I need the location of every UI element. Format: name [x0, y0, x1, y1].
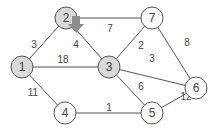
graph-diagram: 31811472361128 1234567 [0, 0, 219, 136]
edge-7-6 [152, 18, 196, 88]
edge-weight-label: 3 [149, 53, 155, 64]
edge-weight-label: 6 [138, 81, 144, 92]
node-6[interactable]: 6 [185, 77, 207, 99]
node-label: 4 [62, 106, 69, 120]
node-label: 1 [19, 60, 26, 74]
edge-weight-label: 3 [31, 39, 37, 50]
node-label: 6 [193, 81, 200, 95]
edge-weight-label: 2 [138, 40, 144, 51]
node-label: 3 [106, 60, 113, 74]
node-7[interactable]: 7 [141, 7, 163, 29]
edge-weight-label: 8 [184, 37, 190, 48]
node-5[interactable]: 5 [141, 102, 163, 124]
node-label: 5 [149, 106, 156, 120]
edge-3-6 [109, 67, 196, 88]
edge-weight-label: 11 [28, 87, 39, 98]
node-4[interactable]: 4 [54, 102, 76, 124]
edge-weight-label: 18 [57, 54, 69, 65]
node-1[interactable]: 1 [11, 56, 33, 78]
node-3[interactable]: 3 [98, 56, 120, 78]
edge-weight-label: 1 [106, 102, 112, 113]
node-label: 2 [63, 11, 70, 25]
edge-weight-label: 4 [73, 39, 79, 50]
node-label: 7 [149, 11, 156, 25]
edge-weight-label: 7 [107, 23, 113, 34]
